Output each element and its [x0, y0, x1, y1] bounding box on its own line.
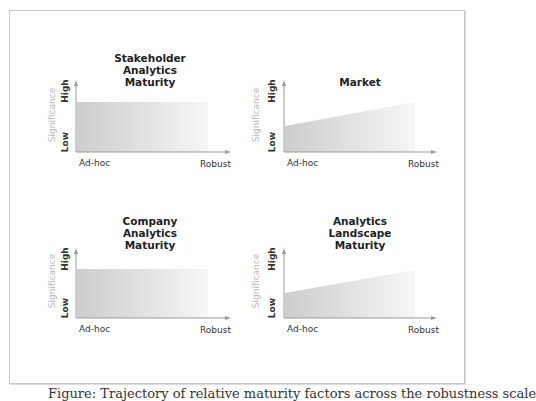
figure-caption: Figure: Trajectory of relative maturity … [48, 386, 536, 401]
panel-company-plot [74, 248, 231, 320]
panel-market-plot [282, 80, 437, 154]
y-axis-label: Significance [251, 85, 261, 145]
x-high-label: Robust [200, 325, 231, 335]
x-high-label: Robust [408, 325, 439, 335]
x-low-label: Ad-hoc [287, 158, 318, 168]
y-low-label: Low [267, 293, 277, 323]
y-high-label: High [267, 244, 277, 274]
x-low-label: Ad-hoc [287, 324, 318, 334]
y-axis-label: Significance [47, 85, 57, 145]
x-high-label: Robust [408, 159, 439, 169]
y-high-label: High [60, 76, 70, 106]
x-low-label: Ad-hoc [79, 158, 110, 168]
panel-stakeholder-plot [74, 80, 231, 154]
y-high-label: High [267, 76, 277, 106]
x-high-label: Robust [200, 159, 231, 169]
panel-title: Analytics Landscape Maturity [310, 215, 410, 251]
panel-title: Market [320, 76, 400, 88]
y-low-label: Low [60, 127, 70, 157]
y-low-label: Low [60, 293, 70, 323]
panel-title: Company Analytics Maturity [100, 215, 200, 251]
panel-title: Stakeholder Analytics Maturity [100, 52, 200, 88]
y-axis-label: Significance [251, 251, 261, 311]
y-low-label: Low [267, 127, 277, 157]
y-high-label: High [60, 244, 70, 274]
panel-landscape-plot [282, 248, 437, 320]
y-axis-label: Significance [47, 251, 57, 311]
x-low-label: Ad-hoc [79, 324, 110, 334]
